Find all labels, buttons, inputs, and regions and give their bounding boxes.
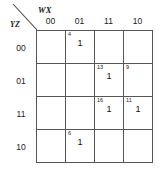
kmap-cell[interactable] bbox=[66, 64, 95, 97]
row-header-1: 01 bbox=[10, 77, 32, 86]
row-axis-label: YZ bbox=[10, 21, 20, 29]
kmap-cell[interactable]: 9 bbox=[124, 64, 153, 97]
karnaugh-map: WX YZ 00 01 11 10 00 01 11 10 4113191611… bbox=[0, 0, 161, 169]
cell-value: 1 bbox=[124, 105, 152, 114]
cell-value: 1 bbox=[66, 39, 94, 48]
column-header-2: 11 bbox=[94, 17, 123, 26]
kmap-cell[interactable] bbox=[66, 97, 95, 130]
cell-minterm-index: 11 bbox=[126, 98, 132, 104]
kmap-cell[interactable] bbox=[37, 130, 66, 163]
kmap-cell[interactable] bbox=[95, 31, 124, 64]
cell-minterm-index: 16 bbox=[97, 98, 103, 104]
row-header-2: 11 bbox=[10, 110, 32, 119]
row-header-3: 10 bbox=[10, 143, 32, 152]
kmap-cell[interactable] bbox=[124, 130, 153, 163]
kmap-cell[interactable] bbox=[37, 97, 66, 130]
kmap-grid: 41131916111161 bbox=[36, 30, 153, 163]
column-axis-label: WX bbox=[38, 6, 52, 15]
kmap-cell[interactable]: 111 bbox=[124, 97, 153, 130]
kmap-cell[interactable]: 161 bbox=[95, 97, 124, 130]
cell-minterm-index: 4 bbox=[68, 32, 71, 38]
column-header-3: 10 bbox=[123, 17, 152, 26]
cell-value: 1 bbox=[95, 72, 123, 81]
cell-minterm-index: 13 bbox=[97, 65, 103, 71]
kmap-cell[interactable] bbox=[37, 64, 66, 97]
kmap-cell[interactable]: 131 bbox=[95, 64, 124, 97]
cell-minterm-index: 6 bbox=[68, 131, 71, 137]
kmap-cell[interactable] bbox=[95, 130, 124, 163]
kmap-cell[interactable] bbox=[37, 31, 66, 64]
kmap-cell[interactable]: 61 bbox=[66, 130, 95, 163]
cell-value: 1 bbox=[95, 105, 123, 114]
column-header-0: 00 bbox=[36, 17, 65, 26]
kmap-cell[interactable]: 41 bbox=[66, 31, 95, 64]
kmap-cell[interactable] bbox=[124, 31, 153, 64]
cell-minterm-index: 9 bbox=[126, 65, 129, 71]
column-header-1: 01 bbox=[65, 17, 94, 26]
cell-value: 1 bbox=[66, 138, 94, 147]
row-header-0: 00 bbox=[10, 44, 32, 53]
